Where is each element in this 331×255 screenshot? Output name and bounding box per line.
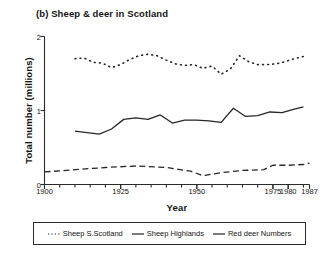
data-series-group [45, 54, 310, 175]
y-tick-label: 2 [37, 32, 41, 41]
series-line [75, 54, 303, 74]
x-tick-label: 1900 [36, 187, 53, 196]
dotted-line-icon [48, 231, 60, 237]
y-tick-label: 1 [37, 106, 41, 115]
plot-area [0, 0, 331, 255]
series-line [45, 163, 310, 176]
series-line [75, 107, 303, 134]
x-tick-label: 1975 [265, 187, 282, 196]
x-tick-label: 1980 [280, 187, 297, 196]
x-tick-label: 1987 [301, 187, 318, 196]
chart-figure: (b) Sheep & deer in Scotland Total numbe… [0, 0, 331, 255]
chart-legend: Sheep S.Scotland Sheep Highlands Red dee… [33, 222, 306, 245]
legend-label: Sheep S.Scotland [63, 229, 123, 238]
solid-line-icon [132, 231, 144, 237]
legend-label: Sheep Highlands [147, 229, 204, 238]
legend-label: Red deer Numbers [228, 229, 291, 238]
legend-item-red-deer-numbers: Red deer Numbers [213, 229, 291, 238]
legend-item-sheep-s-scotland: Sheep S.Scotland [48, 229, 123, 238]
x-tick-label: 1925 [112, 187, 129, 196]
legend-item-sheep-highlands: Sheep Highlands [132, 229, 204, 238]
x-axis-label: Year [44, 202, 310, 213]
dashed-line-icon [213, 231, 225, 237]
x-tick-label: 1950 [188, 187, 205, 196]
